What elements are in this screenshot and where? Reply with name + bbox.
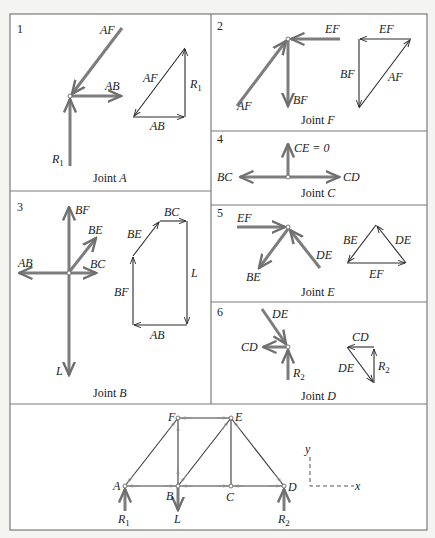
label-bf: BF	[75, 203, 90, 217]
label-ab: AB	[104, 79, 120, 93]
panel-number: 5	[217, 206, 223, 220]
label-bf: BF	[293, 93, 308, 107]
label-ce: CE = 0	[294, 141, 329, 155]
joint-node	[67, 271, 71, 275]
panel-number: 2	[217, 19, 223, 33]
label-cd: CD	[241, 340, 258, 354]
label-be: BE	[246, 270, 261, 284]
joint-node	[286, 175, 290, 179]
label-ab: AB	[17, 256, 33, 270]
panel-caption: Joint A	[93, 171, 127, 185]
poly-label-ef: EF	[378, 22, 394, 36]
poly-label-be: BE	[343, 233, 358, 247]
label-node-d: D	[287, 480, 297, 494]
poly-label-cd: CD	[352, 330, 369, 344]
label-bc: BC	[90, 257, 106, 271]
node-a	[123, 484, 127, 488]
poly-label-de: DE	[337, 361, 355, 375]
poly-label-bc: BC	[164, 205, 180, 219]
axis-label-x: x	[354, 479, 361, 493]
poly-label-ef: EF	[368, 267, 384, 281]
node-d	[282, 484, 286, 488]
label-node-c: C	[226, 490, 235, 504]
label-bc: BC	[217, 170, 233, 184]
node-f	[176, 416, 180, 420]
label-ef: EF	[324, 22, 340, 36]
label-de: DE	[315, 248, 333, 262]
label-be: BE	[88, 223, 103, 237]
label-l: L	[55, 364, 63, 378]
poly-label-l: L	[190, 266, 198, 280]
label-node-b: B	[166, 489, 174, 503]
poly-label-de: DE	[394, 233, 412, 247]
joint-node	[286, 37, 290, 41]
joint-node	[286, 345, 290, 349]
label-node-e: E	[234, 410, 243, 424]
joint-equilibrium-figure: 1 AF AB R1 AF R1 AB Joint A 2 EF AF BF E…	[0, 0, 435, 538]
poly-label-be: BE	[127, 227, 142, 241]
node-c	[229, 484, 233, 488]
panel-caption: Joint D	[301, 389, 336, 403]
label-af: AF	[236, 99, 252, 113]
label-ef: EF	[236, 211, 252, 225]
node-b	[176, 484, 180, 488]
panel-caption: Joint C	[301, 186, 336, 200]
poly-label-ab: AB	[149, 119, 165, 133]
label-de: DE	[271, 307, 289, 321]
poly-label-af: AF	[142, 71, 158, 85]
panel-caption: Joint B	[93, 386, 127, 400]
panel-number: 6	[217, 305, 223, 319]
label-af: AF	[99, 23, 115, 37]
panel-number: 1	[17, 22, 23, 36]
poly-label-bf: BF	[114, 285, 129, 299]
panel-caption: Joint F	[301, 113, 335, 127]
poly-label-af: AF	[387, 70, 403, 84]
label-node-f: F	[167, 410, 176, 424]
joint-node	[68, 94, 72, 98]
poly-label-bf: BF	[340, 67, 355, 81]
node-e	[229, 416, 233, 420]
label-l: L	[173, 512, 181, 526]
label-node-a: A	[112, 479, 121, 493]
panel-caption: Joint E	[301, 285, 335, 299]
joint-node	[286, 225, 290, 229]
panel-number: 4	[217, 132, 223, 146]
panel-number: 3	[17, 200, 23, 214]
poly-label-ab: AB	[149, 328, 165, 342]
label-cd: CD	[343, 170, 360, 184]
axis-label-y: y	[304, 442, 311, 456]
